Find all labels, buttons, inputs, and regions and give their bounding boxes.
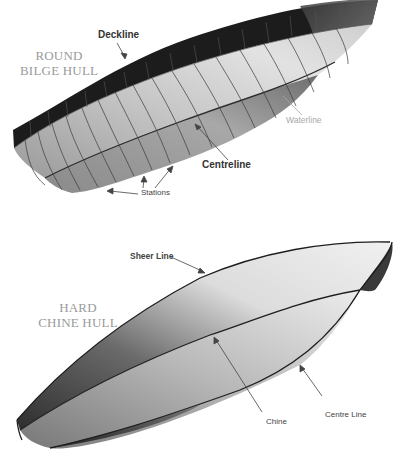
title-line-1: HARD — [36, 300, 120, 315]
hard-chine-hull-title: HARD CHINE HULL — [36, 300, 120, 330]
title-line-1: ROUND — [20, 48, 98, 63]
hard-chine-hull-illustration — [0, 240, 411, 466]
centre-line-label: Centre Line — [325, 411, 366, 419]
title-line-2: CHINE HULL — [36, 315, 120, 330]
centreline-label: Centreline — [202, 160, 251, 170]
chine-label: Chine — [266, 418, 287, 426]
deckline-label: Deckline — [98, 30, 139, 40]
round-bilge-hull-title: ROUND BILGE HULL — [20, 48, 98, 78]
sheer-line-label: Sheer Line — [130, 252, 173, 261]
waterline-label: Waterline — [286, 116, 322, 125]
round-bilge-hull-illustration — [0, 0, 411, 240]
hull-types-diagram: ROUND BILGE HULL Deckline Waterline Cent… — [0, 0, 411, 466]
stations-label: Stations — [141, 189, 170, 197]
title-line-2: BILGE HULL — [20, 63, 98, 78]
